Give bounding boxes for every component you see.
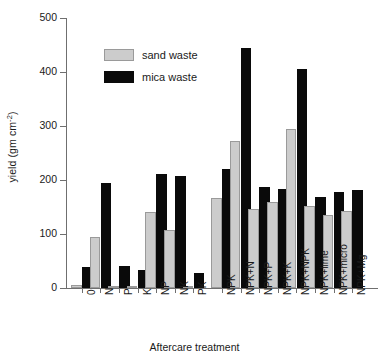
x-axis-tick-label: NPK+Mg <box>356 255 368 295</box>
bar-sand-waste <box>71 285 82 288</box>
x-axis-tick <box>175 289 176 293</box>
y-axis-tick-label: 0 <box>51 281 57 293</box>
legend-item-mica-waste: mica waste <box>104 66 198 88</box>
x-axis-title: Aftercare treatment <box>0 341 389 353</box>
y-axis-tick: 200 <box>60 180 66 181</box>
x-axis-tick <box>352 289 353 293</box>
y-axis-title-exponent: -2 <box>5 115 14 122</box>
x-axis-tick-label: PK <box>197 282 209 295</box>
y-axis-title-text: yield (gm cm <box>6 122 18 183</box>
x-axis-tick-label: K <box>142 288 154 295</box>
x-axis-tick-label: NPK+N <box>245 261 257 295</box>
x-axis-tick-label: NPK+NPK <box>300 248 312 295</box>
y-axis-tick: 500 <box>60 18 66 19</box>
legend-swatch-mica-waste <box>104 71 134 83</box>
x-axis-tick <box>334 289 335 293</box>
y-axis-tick: 100 <box>60 234 66 235</box>
y-axis-tick-label: 200 <box>39 173 57 185</box>
bar-sand-waste <box>211 198 222 288</box>
x-axis-tick <box>100 289 101 293</box>
x-axis-tick <box>278 289 279 293</box>
y-axis-tick: 300 <box>60 126 66 127</box>
bar-chart-figure: yield (gm cm-2) 0100200300400500 0NPKNPN… <box>0 0 389 359</box>
legend-label-sand-waste: sand waste <box>142 49 198 61</box>
y-axis-tick-label: 100 <box>39 227 57 239</box>
legend-label-mica-waste: mica waste <box>142 71 197 83</box>
bar-mica-waste <box>119 266 130 288</box>
x-axis-tick-label: N <box>104 288 116 295</box>
y-axis-title-tail: ) <box>6 111 18 115</box>
bar-sand-waste <box>145 212 156 288</box>
x-axis-tick-label: NPK+K <box>282 262 294 295</box>
legend: sand waste mica waste <box>104 44 198 88</box>
y-axis-line <box>66 18 67 289</box>
x-axis-tick-label: NP <box>160 281 172 295</box>
legend-swatch-sand-waste <box>104 49 134 61</box>
x-axis-tick-label: NPK+lime <box>319 250 331 295</box>
bar-sand-waste <box>164 230 175 288</box>
x-axis-tick <box>222 289 223 293</box>
bar-sand-waste <box>230 141 241 288</box>
x-axis-tick-label: 0 <box>86 289 98 295</box>
y-axis-tick: 400 <box>60 72 66 73</box>
bar-sand-waste <box>90 237 101 288</box>
x-axis-tick <box>241 289 242 293</box>
y-axis-tick-label: 400 <box>39 65 57 77</box>
y-axis-title: yield (gm cm-2) <box>6 2 20 292</box>
x-axis-tick <box>119 289 120 293</box>
x-axis-tick <box>315 289 316 293</box>
x-axis-tick <box>259 289 260 293</box>
legend-item-sand-waste: sand waste <box>104 44 198 66</box>
x-axis-tick <box>156 289 157 293</box>
x-axis-tick-label: NPK+micro <box>338 244 350 295</box>
x-axis-tick-label: NPK <box>226 274 238 295</box>
x-axis-tick-label: NPK+P <box>263 262 275 295</box>
x-axis-tick <box>193 289 194 293</box>
y-axis-tick-label: 500 <box>39 11 57 23</box>
y-axis-tick: 0 <box>60 288 66 289</box>
x-axis-tick <box>82 289 83 293</box>
y-axis-tick-label: 300 <box>39 119 57 131</box>
x-axis-tick-label: P <box>123 288 135 295</box>
x-axis-tick-label: NK <box>179 281 191 295</box>
x-axis-tick <box>138 289 139 293</box>
bar-mica-waste <box>175 176 186 288</box>
bar-mica-waste <box>101 183 112 288</box>
x-axis-tick <box>296 289 297 293</box>
